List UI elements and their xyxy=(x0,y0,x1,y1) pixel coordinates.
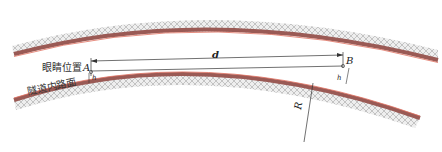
distance-label: d xyxy=(212,49,219,60)
outer-tunnel-wall xyxy=(12,20,438,63)
radius-label: R xyxy=(292,101,304,112)
eye-position-label: 眼睛位置 xyxy=(42,61,82,73)
point-a: A h xyxy=(82,62,97,83)
height-a-label: h xyxy=(92,74,97,82)
point-a-label: A xyxy=(82,62,90,73)
point-b: B h xyxy=(337,55,353,84)
arrow-right-icon xyxy=(337,53,343,57)
sight-distance-dimension: d xyxy=(91,49,343,76)
point-b-label: B xyxy=(345,55,353,66)
arrow-left-icon xyxy=(91,59,97,63)
height-b-label: h xyxy=(337,74,342,82)
sight-line-ab xyxy=(91,66,343,71)
tunnel-sight-distance-diagram: d A h B h R 眼睛位置 隧道内路面 xyxy=(0,0,442,152)
